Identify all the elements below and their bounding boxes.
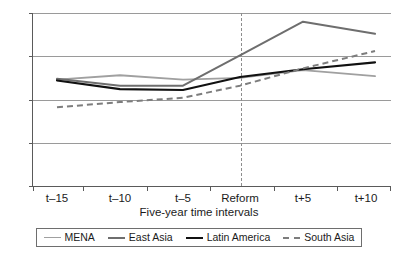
x-axis-tick-label: t–15 (46, 192, 68, 204)
x-axis-tick (33, 186, 34, 191)
legend-item-south-asia[interactable]: South Asia (283, 232, 354, 243)
x-axis-tick-label: t–5 (175, 192, 191, 204)
legend-label: Latin America (207, 232, 271, 243)
legend-label: East Asia (129, 232, 173, 243)
x-axis-tick (337, 186, 338, 191)
gridline-5 (33, 143, 391, 144)
gridline-15 (33, 56, 391, 57)
y-axis-tick (29, 100, 33, 101)
x-axis-tick-label: t+10 (355, 192, 378, 204)
reform-divider-line (241, 13, 242, 186)
legend-item-east-asia[interactable]: East Asia (108, 232, 173, 243)
gridline-10 (33, 100, 391, 101)
x-axis-tick-label: t–10 (109, 192, 131, 204)
x-axis-tick (274, 186, 275, 191)
legend-label: MENA (65, 232, 95, 243)
y-axis-tick (29, 56, 33, 57)
legend-swatch-mena (44, 237, 61, 238)
x-axis-tick-label: t+5 (295, 192, 311, 204)
legend-swatch-south-asia (283, 237, 300, 239)
x-axis-tick (210, 186, 211, 191)
x-axis-tick (390, 186, 391, 191)
x-axis-tick-label: Reform (221, 192, 259, 204)
legend-swatch-east-asia (108, 237, 125, 239)
y-axis-tick (29, 13, 33, 14)
legend-item-latin-america[interactable]: Latin America (186, 232, 271, 243)
x-axis-tick (83, 186, 84, 191)
x-axis-tick (147, 186, 148, 191)
legend-swatch-latin-america (186, 237, 203, 239)
line-chart: 20 15 10 5 0 (0, 0, 398, 253)
gridline-20 (33, 13, 391, 14)
plot-area (32, 13, 390, 186)
y-axis-tick (29, 143, 33, 144)
legend: MENA East Asia Latin America South Asia (36, 228, 362, 247)
legend-label: South Asia (304, 232, 354, 243)
x-axis-title: Five-year time intervals (0, 206, 398, 218)
legend-item-mena[interactable]: MENA (44, 232, 95, 243)
